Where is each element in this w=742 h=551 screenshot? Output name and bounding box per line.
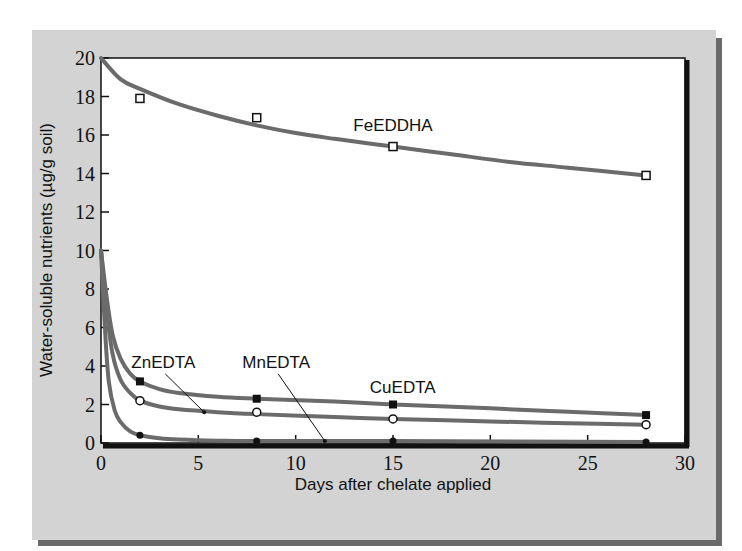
x-tick-label: 30: [675, 452, 695, 474]
mnedta-point: [253, 438, 260, 445]
feeddha-point: [389, 143, 397, 151]
y-tick-label: 8: [85, 278, 95, 300]
y-tick-label: 4: [85, 355, 95, 377]
x-axis-title: Days after chelate applied: [295, 475, 492, 494]
y-tick-label: 20: [75, 47, 95, 69]
y-tick-label: 0: [85, 432, 95, 454]
cuedta-label: CuEDTA: [370, 378, 436, 397]
znedta-leader-dot: [202, 410, 206, 414]
mnedta-label: MnEDTA: [242, 353, 310, 372]
znedta-point: [253, 408, 261, 416]
chart: 02468101214161820 051015202530 FeEDDHACu…: [0, 0, 742, 551]
y-tick-label: 6: [85, 317, 95, 339]
znedta-point: [136, 397, 144, 405]
znedta-point: [642, 421, 650, 429]
y-tick-label: 14: [75, 163, 95, 185]
mnedta-point: [390, 438, 397, 445]
feeddha-point: [136, 94, 144, 102]
cuedta-point: [642, 411, 650, 419]
x-tick-label: 20: [480, 452, 500, 474]
x-tick-label: 0: [96, 452, 106, 474]
y-axis-title: Water-soluble nutrients (µg/g soil): [37, 123, 56, 377]
x-tick-label: 15: [383, 452, 403, 474]
x-tick-label: 10: [286, 452, 306, 474]
cuedta-point: [136, 377, 144, 385]
cuedta-point: [389, 401, 397, 409]
znedta-point: [389, 415, 397, 423]
y-tick-label: 18: [75, 86, 95, 108]
y-tick-label: 10: [75, 240, 95, 262]
feeddha-point: [642, 171, 650, 179]
x-tick-label: 25: [578, 452, 598, 474]
feeddha-label: FeEDDHA: [353, 116, 433, 135]
mnedta-point: [136, 432, 143, 439]
feeddha-point: [253, 114, 261, 122]
mnedta-point: [643, 439, 650, 446]
x-tick-label: 5: [193, 452, 203, 474]
y-tick-label: 12: [75, 201, 95, 223]
y-tick-label: 16: [75, 124, 95, 146]
mnedta-leader-dot: [323, 439, 327, 443]
y-tick-label: 2: [85, 394, 95, 416]
znedta-label: ZnEDTA: [131, 353, 196, 372]
cuedta-point: [253, 395, 261, 403]
